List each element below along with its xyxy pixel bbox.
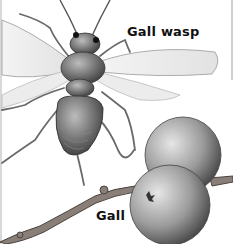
label-gall: Gall <box>96 208 125 223</box>
gall-lower <box>130 165 210 244</box>
antennae <box>60 0 110 36</box>
label-gall-wasp: Gall wasp <box>127 24 200 39</box>
right-wings <box>96 50 218 101</box>
left-wings <box>2 20 70 108</box>
wasp-abdomen <box>56 96 103 155</box>
illustration-canvas: Gall wasp Gall <box>0 0 233 244</box>
